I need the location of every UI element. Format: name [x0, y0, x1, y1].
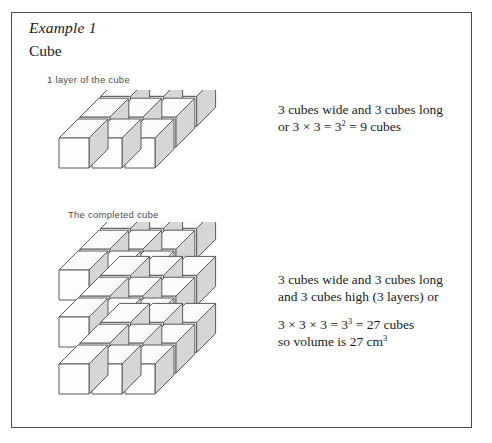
- cube-face-right: [197, 90, 216, 126]
- single-layer-note: 3 cubes wide and 3 cubes long or 3 × 3 =…: [278, 101, 443, 135]
- note-spacer: [278, 305, 443, 316]
- completed-cube-note-line2: and 3 cubes high (3 layers) or: [278, 289, 438, 304]
- cube-face-front: [59, 138, 89, 168]
- completed-cube-diagram: [55, 222, 255, 412]
- cube-face-right: [197, 222, 216, 258]
- example-title: Example 1: [29, 19, 97, 37]
- cube-row: [59, 119, 174, 168]
- completed-cube-note-line4: so volume is 27 cm3: [278, 334, 387, 349]
- page-title: Cube: [29, 42, 62, 60]
- single-layer-cube-diagram: [55, 90, 255, 190]
- completed-cube-note-line1: 3 cubes wide and 3 cubes long: [278, 272, 443, 287]
- note-text: or 3 × 3 = 3: [278, 119, 342, 134]
- page-canvas: Example 1 Cube 1 layer of the cube 3 cub…: [0, 0, 492, 443]
- completed-cube-note-line3: 3 × 3 × 3 = 33 = 27 cubes: [278, 317, 414, 332]
- note-text: so volume is 27 cm: [278, 334, 383, 349]
- single-layer-caption: 1 layer of the cube: [47, 74, 130, 85]
- cube-face-front: [59, 364, 89, 394]
- cube-row: [59, 345, 174, 394]
- note-text: 3 × 3 × 3 = 3: [278, 317, 348, 332]
- note-text: = 27 cubes: [352, 317, 414, 332]
- exponent: 3: [383, 334, 387, 343]
- completed-cube-caption: The completed cube: [68, 209, 159, 220]
- note-text: = 9 cubes: [346, 119, 401, 134]
- single-layer-note-line2: or 3 × 3 = 32 = 9 cubes: [278, 119, 401, 134]
- single-layer-note-line1: 3 cubes wide and 3 cubes long: [278, 102, 443, 117]
- completed-cube-note: 3 cubes wide and 3 cubes long and 3 cube…: [278, 271, 443, 350]
